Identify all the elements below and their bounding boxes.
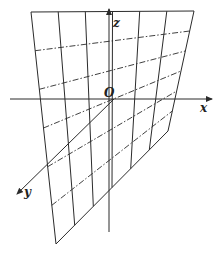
boundary-edge-right <box>168 11 194 131</box>
saddle-surface-diagram: x z y O <box>0 0 220 253</box>
boundary-edge-top <box>31 11 194 12</box>
y-axis <box>17 99 114 194</box>
z-axis-label: z <box>112 16 121 30</box>
boundary-edge-left <box>31 12 56 244</box>
origin-label: O <box>104 86 115 100</box>
y-axis-label: y <box>23 185 32 199</box>
solid-ruling-lines <box>58 11 167 225</box>
solid-ruling <box>131 11 140 168</box>
x-axis-label: x <box>199 101 208 115</box>
